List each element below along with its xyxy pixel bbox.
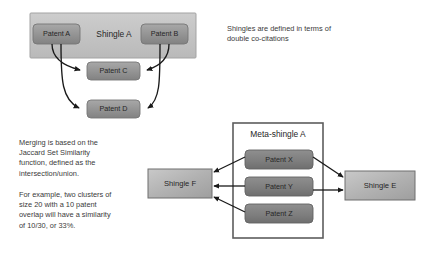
patent-x-label: Patent X bbox=[265, 155, 293, 164]
patent-b-node[interactable]: Patent B bbox=[141, 24, 188, 44]
patent-c-label: Patent C bbox=[100, 66, 128, 75]
patent-c-node[interactable]: Patent C bbox=[87, 62, 140, 80]
patent-z-node[interactable]: Patent Z bbox=[245, 204, 313, 223]
patent-d-node[interactable]: Patent D bbox=[87, 100, 140, 118]
patent-b-label: Patent B bbox=[151, 29, 179, 38]
patent-y-label: Patent Y bbox=[265, 182, 293, 191]
patent-a-label: Patent A bbox=[43, 29, 70, 38]
shingle-e-node[interactable]: Shingle E bbox=[345, 171, 415, 200]
patent-d-label: Patent D bbox=[100, 104, 128, 113]
diagram-canvas: Shingle A Patent A Patent B Patent C Pat… bbox=[0, 0, 426, 256]
note-co-citations: Shingles are defined in terms of double … bbox=[227, 24, 417, 44]
shingle-e-label: Shingle E bbox=[364, 181, 397, 190]
shingle-f-label: Shingle F bbox=[164, 179, 196, 188]
shingle-f-node[interactable]: Shingle F bbox=[148, 169, 212, 198]
note-jaccard-similarity: Merging is based on the Jaccard Set Simi… bbox=[19, 138, 147, 179]
patent-z-label: Patent Z bbox=[265, 209, 293, 218]
patent-a-node[interactable]: Patent A bbox=[33, 24, 80, 44]
meta-shingle-label: Meta-shingle A bbox=[250, 129, 306, 139]
shingle-a-label: Shingle A bbox=[96, 29, 132, 39]
note-example-calculation: For example, two clusters of size 20 wit… bbox=[19, 190, 154, 231]
patent-y-node[interactable]: Patent Y bbox=[245, 177, 313, 196]
patent-x-node[interactable]: Patent X bbox=[245, 150, 313, 169]
